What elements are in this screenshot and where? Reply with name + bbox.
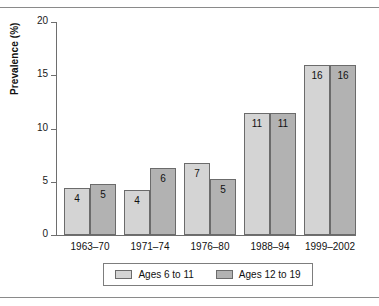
- y-axis-tick-label: 10: [37, 122, 48, 134]
- y-axis-tick-mark: [51, 182, 56, 183]
- legend-label: Ages 12 to 19: [239, 269, 301, 281]
- bar-group: 1616: [304, 22, 356, 235]
- bar[interactable]: 16: [304, 65, 330, 235]
- bar-value-label: 4: [125, 195, 149, 206]
- y-axis-tick-label: 20: [37, 15, 48, 27]
- x-axis-line: [56, 235, 356, 236]
- bar[interactable]: 5: [210, 179, 236, 235]
- bar[interactable]: 11: [244, 113, 270, 235]
- chart-legend: Ages 6 to 11Ages 12 to 19: [103, 263, 313, 286]
- x-axis-tick-label: 1999–2002: [300, 241, 360, 253]
- plot-area: 05101520 45467511111616 1963–701971–7419…: [56, 22, 360, 236]
- y-axis-tick-mark: [51, 129, 56, 130]
- bar-value-label: 5: [91, 189, 115, 200]
- bar-value-label: 6: [151, 173, 175, 184]
- x-axis-tick-label: 1963–70: [60, 241, 120, 253]
- bar-value-label: 7: [185, 168, 209, 179]
- bar-value-label: 4: [65, 193, 89, 204]
- bar-value-label: 11: [245, 118, 269, 129]
- bar[interactable]: 6: [150, 168, 176, 235]
- y-axis-tick-mark: [51, 22, 56, 23]
- bar-group: 46: [124, 22, 176, 235]
- bar-group: 75: [184, 22, 236, 235]
- bar[interactable]: 7: [184, 163, 210, 235]
- bottom-divider-rule: [0, 297, 379, 298]
- bar[interactable]: 11: [270, 113, 296, 235]
- legend-swatch: [216, 270, 233, 279]
- bar[interactable]: 16: [330, 65, 356, 235]
- x-axis-tick-label: 1971–74: [120, 241, 180, 253]
- y-axis-tick-label: 15: [37, 68, 48, 80]
- bar-group: 45: [64, 22, 116, 235]
- bar-value-label: 5: [211, 184, 235, 195]
- legend-label: Ages 6 to 11: [138, 269, 193, 281]
- y-axis-title: Prevalence (%): [9, 0, 20, 95]
- legend-item[interactable]: Ages 6 to 11: [115, 269, 193, 281]
- x-axis-tick-label: 1976–80: [180, 241, 240, 253]
- y-axis-tick-label: 5: [42, 175, 48, 187]
- bar[interactable]: 4: [64, 188, 90, 235]
- y-axis-tick-mark: [51, 75, 56, 76]
- top-divider-rule: [0, 7, 379, 8]
- legend-swatch: [115, 270, 132, 279]
- bar[interactable]: 5: [90, 184, 116, 235]
- bar-value-label: 16: [305, 70, 329, 81]
- y-axis-line: [56, 22, 57, 236]
- bar-value-label: 11: [271, 118, 295, 129]
- y-axis-tick-label: 0: [42, 228, 48, 240]
- figure: Prevalence (%) 05101520 45467511111616 1…: [0, 0, 379, 306]
- bar[interactable]: 4: [124, 190, 150, 235]
- legend-item[interactable]: Ages 12 to 19: [216, 269, 301, 281]
- y-axis-tick-mark: [51, 235, 56, 236]
- bar-value-label: 16: [331, 70, 355, 81]
- x-axis-tick-label: 1988–94: [240, 241, 300, 253]
- bar-group: 1111: [244, 22, 296, 235]
